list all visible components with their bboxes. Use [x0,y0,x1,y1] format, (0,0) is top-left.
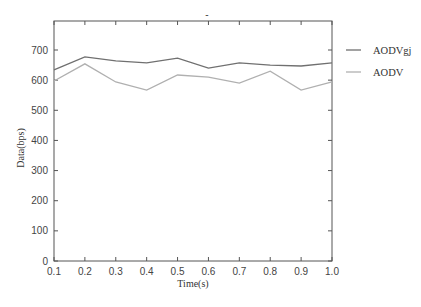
x-tick-label: 0.7 [232,266,246,277]
series-line-aodv [54,64,332,90]
y-tick-label: 500 [31,105,48,116]
y-tick-label: 300 [31,165,48,176]
x-tick-label: 0.9 [294,266,308,277]
x-tick-label: 0.6 [201,266,215,277]
y-tick-label: 100 [31,225,48,236]
x-tick-label: 0.4 [140,266,154,277]
legend-label-aodv: AODV [373,67,404,78]
legend: AODVgjAODV [346,45,412,78]
x-tick-label: 0.5 [171,266,185,277]
line-chart: - 0100200300400500600700 0.10.20.30.40.5… [0,0,421,307]
y-axis-title: Data(bps) [15,128,27,167]
y-tick-label: 700 [31,45,48,56]
x-axis-title: Time(s) [177,278,208,290]
series-lines [54,57,332,90]
y-tick-label: 400 [31,135,48,146]
x-tick-label: 0.3 [109,266,123,277]
x-tick-label: 0.1 [47,266,61,277]
series-line-aodvgj [54,57,332,70]
plot-frame [54,21,332,261]
x-axis-ticks: 0.10.20.30.40.50.60.70.80.91.0 [47,21,339,277]
y-axis-ticks: 0100200300400500600700 [31,45,332,267]
plot-border [54,21,332,261]
chart-title-artifact: - [205,9,208,20]
y-tick-label: 600 [31,75,48,86]
x-tick-label: 1.0 [325,266,339,277]
x-tick-label: 0.2 [78,266,92,277]
x-tick-label: 0.8 [263,266,277,277]
y-tick-label: 200 [31,195,48,206]
y-tick-label: 0 [42,256,48,267]
legend-label-aodvgj: AODVgj [373,45,412,56]
